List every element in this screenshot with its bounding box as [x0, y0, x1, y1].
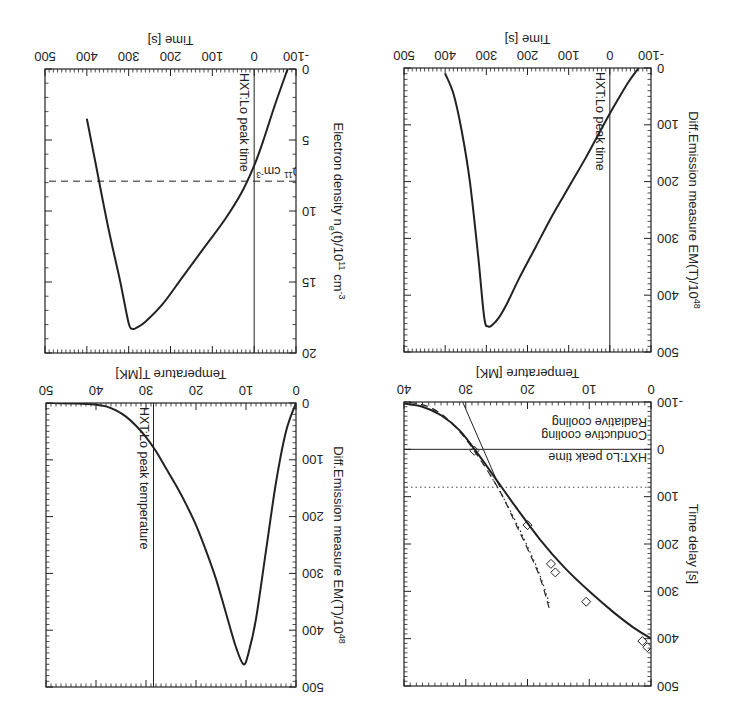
x-tick-label: 300: [475, 48, 497, 63]
reference-line-label: HXT:Lo peak time: [548, 450, 647, 464]
plot-frame: [404, 68, 651, 352]
x-tick-label: 40: [397, 382, 411, 397]
y-tick-label: 400: [302, 623, 324, 638]
y-tick-label: 100: [302, 452, 324, 467]
x-tick-label: 400: [76, 49, 98, 64]
y-tick-label: 0: [302, 396, 309, 411]
x-axis-label: Time [s]: [148, 33, 194, 48]
y-tick-label: 200: [302, 509, 324, 524]
data-point-diamond: [582, 597, 591, 606]
reference-line-label: HXT:Lo peak time: [237, 73, 251, 172]
x-tick-label: 10: [582, 382, 596, 397]
y-tick-label: 100: [657, 117, 679, 132]
plot-canvas: 010203040-1000100200300400500Temperature…: [0, 0, 731, 722]
x-tick-label: 50: [39, 383, 53, 398]
x-tick-label: 0: [251, 49, 258, 64]
y-tick-label: 500: [657, 679, 679, 694]
y-tick-label: 400: [657, 288, 679, 303]
y-axis-label: Diff.Emission measure EM(T)/1048: [331, 446, 347, 644]
x-tick-label: 100: [201, 49, 223, 64]
x-tick-label: 30: [459, 382, 473, 397]
x-tick-label: 20: [189, 383, 203, 398]
y-axis-label: Time delay [s]: [686, 504, 701, 584]
y-tick-label: 15: [302, 275, 316, 290]
series-dem: [46, 403, 296, 664]
y-tick-label: 500: [657, 345, 679, 360]
panel-dem-vs-time: -10001002003004005000100200300400500Time…: [393, 32, 702, 360]
x-tick-label: 500: [34, 49, 56, 64]
y-tick-label: 500: [302, 680, 324, 695]
y-tick-label: 0: [657, 61, 664, 76]
x-tick-label: 100: [558, 48, 580, 63]
x-axis-label: Time [s]: [505, 32, 551, 47]
x-tick-label: 40: [89, 383, 103, 398]
y-tick-label: 400: [657, 631, 679, 646]
y-tick-label: 200: [657, 174, 679, 189]
y-tick-label: 10: [302, 204, 316, 219]
x-tick-label: 400: [434, 48, 456, 63]
x-tick-label: 20: [520, 382, 534, 397]
panel-density-vs-time: -100010020030040050005101520Time [s]Elec…: [34, 33, 428, 361]
y-tick-label: -100: [657, 395, 683, 410]
x-tick-label: 200: [517, 48, 539, 63]
x-tick-label: 0: [606, 48, 613, 63]
figure-four-panel: 010203040-1000100200300400500Temperature…: [0, 0, 731, 722]
x-tick-label: 10: [239, 383, 253, 398]
x-tick-label: 500: [393, 48, 415, 63]
x-tick-label: 30: [139, 383, 153, 398]
x-axis-label: Temperature [MK]: [476, 366, 579, 381]
x-tick-label: 0: [292, 383, 299, 398]
series-linear-fit: [463, 402, 500, 487]
y-tick-label: 20: [302, 346, 316, 361]
plot-frame: [46, 403, 296, 687]
series-density: [87, 69, 288, 329]
data-point-diamond: [551, 568, 560, 577]
plot-frame: [45, 69, 296, 353]
panel-dem-vs-temperature: 010203040500100200300400500Temperature T…: [39, 367, 347, 695]
y-tick-label: 300: [657, 231, 679, 246]
y-tick-label: 5: [302, 133, 309, 148]
legend-entry: Conductive cooling: [541, 428, 647, 442]
x-tick-label: 0: [647, 382, 654, 397]
x-tick-label: 200: [160, 49, 182, 64]
legend-entry: Radiative cooling: [552, 415, 647, 429]
y-tick-label: 100: [657, 489, 679, 504]
y-tick-label: 200: [657, 537, 679, 552]
y-tick-label: 0: [657, 442, 664, 457]
x-tick-label: 300: [118, 49, 140, 64]
x-axis-label: Temperature T[MK]: [115, 367, 226, 382]
data-point-diamond: [546, 559, 555, 568]
y-tick-label: 300: [657, 584, 679, 599]
plot-frame: [404, 402, 651, 686]
y-axis-label: Diff.Emission measure EM(T)/1048: [686, 111, 702, 309]
y-axis-label: Electron density ne(t)/1011 cm-3: [327, 122, 347, 299]
y-tick-label: 0: [302, 62, 309, 77]
panel-temperature-vs-delay: 010203040-1000100200300400500Temperature…: [397, 366, 701, 694]
y-tick-label: 300: [302, 566, 324, 581]
